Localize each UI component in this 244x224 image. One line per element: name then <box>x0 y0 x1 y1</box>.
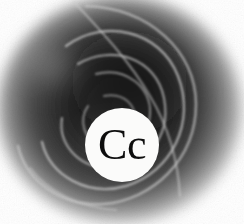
cc-badge-label: Cc <box>98 123 146 167</box>
cc-badge: Cc <box>85 108 159 182</box>
image-canvas: Cc <box>0 0 244 224</box>
